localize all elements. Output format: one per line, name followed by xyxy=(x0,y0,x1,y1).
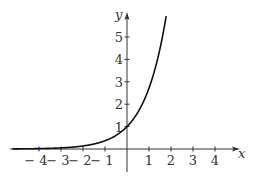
y-axis-label: y xyxy=(114,7,123,22)
exponential-chart: − 4− 3− 2− 1123412345 x y xyxy=(0,0,254,179)
x-tick-label: 1 xyxy=(145,153,153,168)
x-tick-label: 3 xyxy=(189,153,197,168)
y-tick-label: 5 xyxy=(115,30,123,45)
y-tick-label: 3 xyxy=(115,75,123,90)
x-tick-label: 2 xyxy=(167,153,175,168)
x-axis-label: x xyxy=(238,146,246,161)
exponential-curve xyxy=(13,16,167,149)
x-tick-label: − 4 xyxy=(24,153,47,168)
x-tick-label: 4 xyxy=(211,153,219,168)
x-tick-label: − 2 xyxy=(68,153,91,168)
tick-labels: − 4− 3− 2− 1123412345 xyxy=(24,30,219,168)
x-tick-label: − 3 xyxy=(46,153,69,168)
y-tick-label: 2 xyxy=(115,97,123,112)
y-tick-label: 4 xyxy=(115,52,123,67)
x-tick-label: − 1 xyxy=(90,153,113,168)
